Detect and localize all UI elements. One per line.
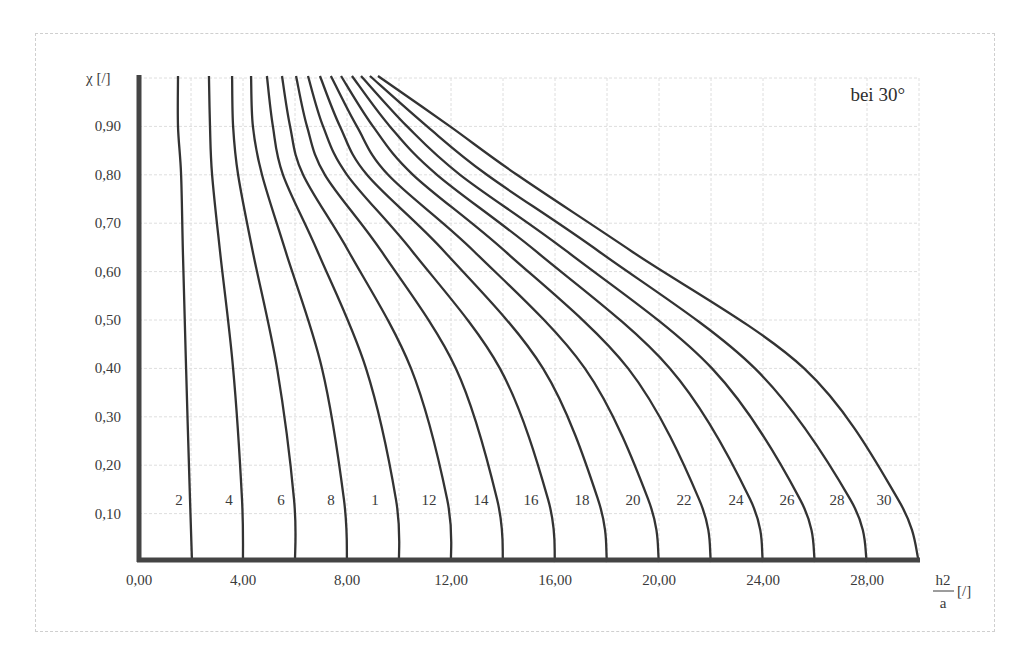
x-tick-label: 16,00 [538,572,572,588]
y-tick-label: 0,40 [95,360,121,376]
x-axis-label-unit: [/] [957,583,971,599]
curve-label: 1 [371,492,379,508]
x-tick-label: 12,00 [434,572,468,588]
x-tick-label: 4,00 [230,572,256,588]
curve-label: 28 [830,492,845,508]
curve-label: 4 [225,492,233,508]
curve-label: 24 [729,492,745,508]
y-tick-label: 0,60 [95,264,121,280]
curve-30 [378,76,919,562]
x-tick-labels: 0,004,008,0012,0016,0020,0024,0028,00 [126,572,884,588]
curve-label: 12 [422,492,437,508]
y-tick-label: 0,30 [95,409,121,425]
curve-label: 8 [327,492,335,508]
x-axis-label: h2 a [/] [933,572,971,611]
x-axis-label-denominator: a [940,595,947,611]
curve-2 [178,76,192,562]
curve-14 [296,76,503,562]
curve-label: 6 [277,492,285,508]
curve-label: 30 [877,492,892,508]
y-tick-label: 0,50 [95,312,121,328]
x-tick-label: 24,00 [746,572,780,588]
x-tick-label: 20,00 [642,572,676,588]
curve-label: 26 [780,492,796,508]
curve-label: 14 [474,492,490,508]
y-tick-label: 0,20 [95,457,121,473]
curve-24 [352,76,763,562]
y-tick-label: 0,70 [95,215,121,231]
annotation-angle: bei 30° [850,84,905,105]
curve-label: 2 [175,492,183,508]
y-axis-label: χ [/] [85,70,111,86]
x-tick-label: 0,00 [126,572,152,588]
curve-labels: 2468112141618202224262830 [175,492,891,508]
curve-4 [209,76,243,562]
y-tick-labels: 0,100,200,300,400,500,600,700,800,90 [95,118,121,521]
y-tick-label: 0,90 [95,118,121,134]
y-tick-label: 0,10 [95,506,121,522]
x-tick-label: 8,00 [334,572,360,588]
curves [178,76,919,562]
chart: 0,100,200,300,400,500,600,700,800,90 0,0… [0,0,1027,669]
curve-label: 20 [626,492,641,508]
curve-label: 16 [524,492,540,508]
curve-label: 22 [677,492,692,508]
x-tick-label: 28,00 [850,572,884,588]
curve-18 [320,76,607,562]
curve-label: 18 [575,492,590,508]
x-axis-label-numerator: h2 [936,572,951,588]
y-tick-label: 0,80 [95,167,121,183]
